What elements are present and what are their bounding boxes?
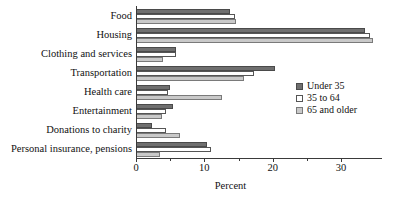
category-label: Donations to charity bbox=[46, 125, 132, 136]
legend-swatch-icon bbox=[296, 83, 303, 90]
x-tick-minor bbox=[170, 158, 171, 161]
x-axis-line bbox=[136, 158, 382, 159]
bar-chart: FoodHousingClothing and servicesTranspor… bbox=[0, 0, 401, 202]
bar bbox=[136, 19, 236, 24]
bar bbox=[136, 133, 180, 138]
legend-swatch-icon bbox=[296, 95, 303, 102]
category-label: Food bbox=[110, 11, 132, 22]
bar-group bbox=[136, 44, 382, 63]
legend-label: 65 and older bbox=[307, 105, 357, 115]
legend: Under 3535 to 6465 and older bbox=[296, 81, 357, 117]
bar bbox=[136, 114, 162, 119]
bar-group bbox=[136, 25, 382, 44]
x-tick-label: 10 bbox=[199, 163, 210, 174]
category-label: Health care bbox=[84, 87, 132, 98]
bar bbox=[136, 152, 160, 157]
x-tick-minor bbox=[239, 158, 240, 161]
x-tick-label: 20 bbox=[267, 163, 278, 174]
x-tick-label: 0 bbox=[133, 163, 138, 174]
x-axis-title-text: Percent bbox=[215, 180, 247, 191]
legend-item[interactable]: Under 35 bbox=[296, 81, 357, 91]
category-label: Personal insurance, pensions bbox=[11, 144, 132, 155]
bar-group bbox=[136, 6, 382, 25]
bar-group bbox=[136, 63, 382, 82]
category-label: Housing bbox=[96, 30, 132, 41]
legend-item[interactable]: 65 and older bbox=[296, 105, 357, 115]
legend-label: Under 35 bbox=[307, 81, 345, 91]
category-label: Clothing and services bbox=[41, 49, 132, 60]
category-label: Entertainment bbox=[73, 106, 132, 117]
legend-item[interactable]: 35 to 64 bbox=[296, 93, 357, 103]
x-tick-label: 30 bbox=[336, 163, 347, 174]
x-axis-title: Percent bbox=[0, 180, 401, 191]
category-labels: FoodHousingClothing and servicesTranspor… bbox=[0, 6, 132, 158]
legend-label: 35 to 64 bbox=[307, 93, 340, 103]
category-label: Transportation bbox=[71, 68, 132, 79]
x-tick-minor bbox=[307, 158, 308, 161]
bar-group bbox=[136, 139, 382, 158]
bar-group bbox=[136, 120, 382, 139]
y-axis-line bbox=[136, 6, 137, 158]
legend-swatch-icon bbox=[296, 107, 303, 114]
bar bbox=[136, 76, 244, 81]
bar bbox=[136, 95, 222, 100]
bar bbox=[136, 38, 373, 43]
bar bbox=[136, 57, 163, 62]
